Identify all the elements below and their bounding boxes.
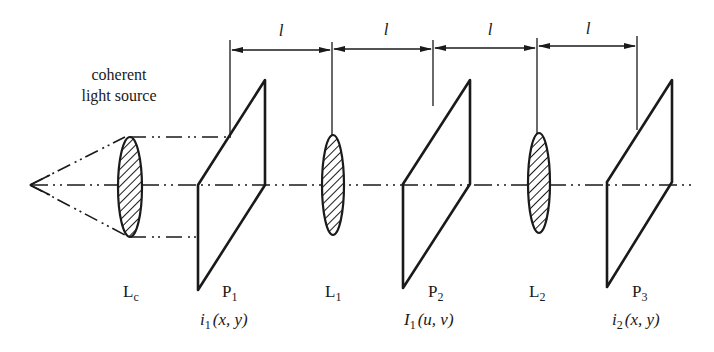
label-l1: L1	[325, 282, 341, 304]
svg-text:P2: P2	[428, 282, 443, 304]
source-label: coherent light source	[81, 66, 156, 105]
svg-text:P1: P1	[222, 282, 237, 304]
svg-text:Lc: Lc	[123, 282, 139, 304]
label-p1: P1 i1(x, y)	[200, 282, 248, 332]
source-cone	[30, 137, 125, 235]
svg-text:P3: P3	[632, 282, 647, 304]
lens-l2	[528, 133, 550, 233]
svg-text:L1: L1	[325, 282, 341, 304]
svg-text:l: l	[279, 21, 284, 40]
svg-text:l: l	[488, 20, 493, 39]
dimension-labels: l l l l	[279, 19, 591, 40]
svg-text:light source: light source	[81, 87, 156, 105]
svg-text:i1(x, y): i1(x, y)	[200, 310, 248, 332]
lens-lc	[118, 137, 142, 237]
label-p2: P2 I1(u, v)	[403, 282, 454, 332]
plane-p2	[403, 80, 470, 288]
label-l2: L2	[529, 282, 545, 304]
lens-l1	[322, 135, 344, 235]
svg-text:L2: L2	[529, 282, 545, 304]
plane-p3	[607, 80, 672, 287]
label-p3: P3 i2(x, y)	[612, 282, 660, 332]
svg-text:I1(u, v): I1(u, v)	[403, 310, 454, 332]
optical-system-diagram: l l l l coherent light source Lc P1 i1(x…	[0, 0, 714, 352]
svg-text:i2(x, y): i2(x, y)	[612, 310, 660, 332]
svg-text:l: l	[384, 20, 389, 39]
collimated-beam	[130, 137, 231, 237]
svg-text:l: l	[586, 19, 591, 38]
svg-text:coherent: coherent	[91, 66, 147, 83]
dimension-lines	[230, 36, 637, 135]
label-lc: Lc	[123, 282, 139, 304]
